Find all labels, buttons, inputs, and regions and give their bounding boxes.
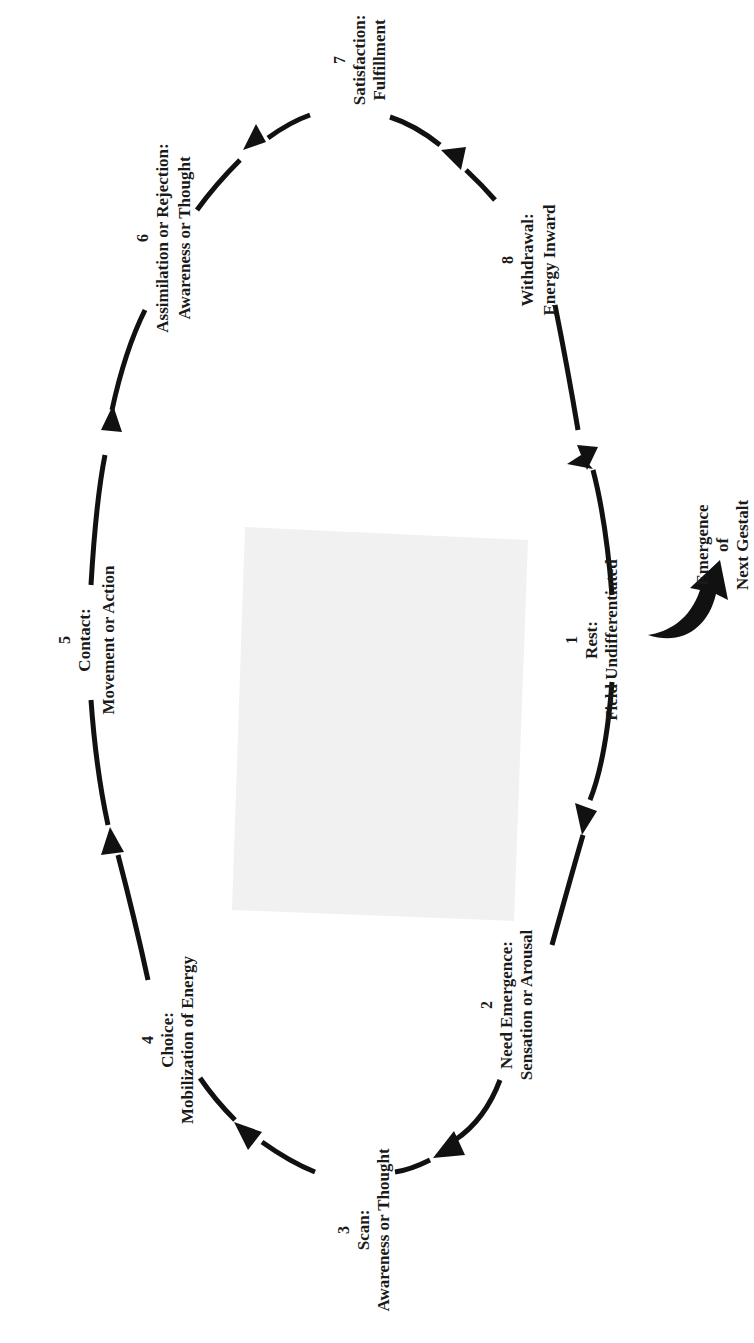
svg-text:Energy Inward: Energy Inward <box>540 204 559 316</box>
stage-7-label: 7 Satisfaction: Fulfillment <box>331 15 389 106</box>
stage-6-label: 6 Assimilation or Rejection: Awareness o… <box>134 143 194 333</box>
stage-4-label: 4 Choice: Mobilization of Energy <box>139 955 197 1124</box>
cycle-arc-3b <box>200 1078 235 1120</box>
svg-text:Fulfillment: Fulfillment <box>370 19 389 101</box>
cycle-arc-7b <box>466 170 495 200</box>
cycle-arc-1b <box>552 835 583 945</box>
cycle-arc-6 <box>197 160 240 210</box>
stage-5-label: 5 Contact: Movement or Action <box>56 565 118 714</box>
arrowhead-7-8 <box>441 147 466 170</box>
svg-text:8: 8 <box>499 256 516 264</box>
cycle-arc-6b <box>268 115 310 138</box>
svg-text:Assimilation or Rejection:: Assimilation or Rejection: <box>153 143 172 333</box>
svg-text:Rest:: Rest: <box>582 621 601 659</box>
svg-text:7: 7 <box>331 56 348 64</box>
svg-text:2: 2 <box>478 1001 495 1009</box>
svg-text:Next Gestalt: Next Gestalt <box>733 500 752 591</box>
emergence-curved-arrow-icon <box>648 560 728 638</box>
arrowhead-6-7 <box>243 124 266 150</box>
svg-text:Awareness or Thought: Awareness or Thought <box>374 1148 393 1311</box>
svg-text:Choice:: Choice: <box>158 1012 177 1068</box>
gestalt-cycle-diagram: 1 Rest: Field Undifferentiated 2 Need Em… <box>0 0 754 1343</box>
cycle-arc-8 <box>555 305 578 430</box>
cycle-arc-7 <box>390 117 440 145</box>
arrowhead-5-6 <box>101 405 122 432</box>
arrowhead-1-2 <box>575 803 597 835</box>
svg-text:Scan:: Scan: <box>354 1210 373 1251</box>
svg-text:Withdrawal:: Withdrawal: <box>518 213 537 306</box>
svg-text:Contact:: Contact: <box>75 608 94 671</box>
svg-text:4: 4 <box>139 1036 156 1044</box>
stage-3-label: 3 Scan: Awareness or Thought <box>335 1148 393 1311</box>
svg-text:Satisfaction:: Satisfaction: <box>350 15 369 106</box>
cycle-arc-2b <box>395 1160 430 1172</box>
svg-text:3: 3 <box>335 1226 352 1234</box>
arrowhead-3-4 <box>234 1122 262 1150</box>
svg-text:Need Emergence:: Need Emergence: <box>497 941 516 1069</box>
svg-text:Mobilization of Energy: Mobilization of Energy <box>178 955 197 1124</box>
stage-8-label: 8 Withdrawal: Energy Inward <box>499 204 559 316</box>
cycle-arc-5b <box>112 310 145 410</box>
cycle-arc-3 <box>262 1142 315 1172</box>
cycle-arc-4 <box>118 855 148 980</box>
svg-text:Movement or Action: Movement or Action <box>99 565 118 714</box>
svg-text:Awareness or Thought: Awareness or Thought <box>175 156 194 319</box>
svg-text:1: 1 <box>563 636 580 644</box>
cycle-arc-5 <box>91 455 105 585</box>
cycle-arc-4b <box>91 700 108 825</box>
svg-text:5: 5 <box>56 636 73 644</box>
arrowhead-4-5 <box>101 827 124 855</box>
stage-1-label: 1 Rest: Field Undifferentiated <box>563 559 621 721</box>
center-placeholder <box>232 527 528 921</box>
svg-text:6: 6 <box>134 234 151 242</box>
svg-text:of: of <box>713 538 732 553</box>
svg-text:Field Undifferentiated: Field Undifferentiated <box>602 559 621 721</box>
stage-2-label: 2 Need Emergence: Sensation or Arousal <box>478 929 536 1080</box>
svg-text:Emergence: Emergence <box>693 504 712 586</box>
cycle-arc-2 <box>455 1080 500 1140</box>
svg-text:Sensation or Arousal: Sensation or Arousal <box>517 929 536 1080</box>
